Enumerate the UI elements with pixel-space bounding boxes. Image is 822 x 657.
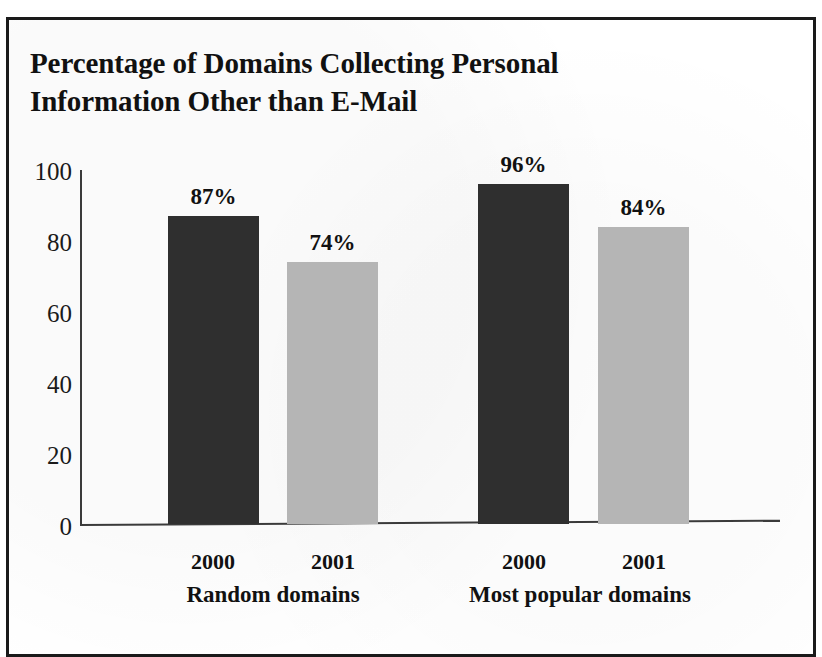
- group-label-most-popular-domains: Most popular domains: [460, 583, 700, 606]
- y-tick-label-100: 100: [14, 159, 72, 184]
- y-tick-label-60: 60: [14, 301, 72, 326]
- x-tick-label-popular-2000: 2000: [474, 551, 574, 573]
- x-tick-label-random-2000: 2000: [163, 551, 263, 573]
- x-tick-label-random-2001: 2001: [283, 551, 383, 573]
- bar-random-2000: [168, 216, 259, 524]
- y-tick-label-20: 20: [14, 443, 72, 468]
- group-label-random-domains: Random domains: [163, 583, 383, 606]
- y-axis-tick-labels: 100 80 60 40 20 0: [8, 0, 72, 620]
- y-axis-line: [80, 170, 82, 525]
- bar-popular-2000: [478, 184, 569, 524]
- bar-value-random-2001: 74%: [287, 231, 378, 254]
- bar-random-2001: [287, 262, 378, 524]
- y-tick-label-40: 40: [14, 372, 72, 397]
- x-tick-label-popular-2001: 2001: [594, 551, 694, 573]
- bar-popular-2001: [598, 227, 689, 524]
- bar-value-popular-2000: 96%: [478, 153, 569, 176]
- y-tick-label-80: 80: [14, 230, 72, 255]
- bar-value-popular-2001: 84%: [598, 196, 689, 219]
- bar-value-random-2000: 87%: [168, 185, 259, 208]
- y-tick-label-0: 0: [14, 514, 72, 539]
